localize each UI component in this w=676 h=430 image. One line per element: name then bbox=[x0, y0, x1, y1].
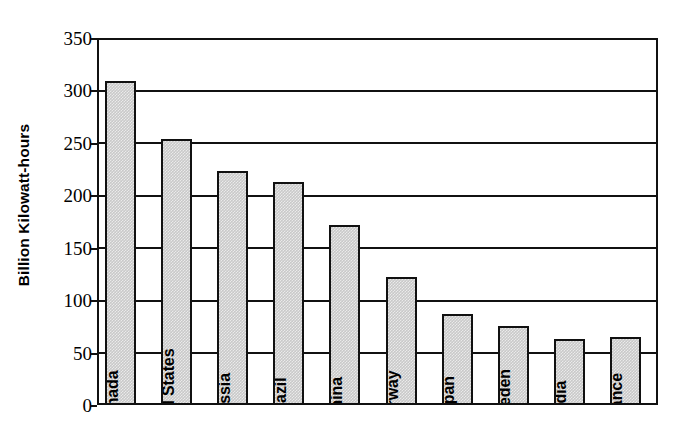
y-axis-tick-label: 50 bbox=[40, 343, 92, 362]
bar-label: Canada bbox=[105, 370, 121, 405]
y-axis-tick-labels: 050100150200250300350 bbox=[40, 0, 92, 430]
y-axis-tick-label: 300 bbox=[40, 81, 92, 100]
bar[interactable]: Russia bbox=[217, 171, 248, 405]
y-axis-tick-label: 200 bbox=[40, 186, 92, 205]
y-axis-tick-label: 250 bbox=[40, 133, 92, 152]
bar[interactable]: Brazil bbox=[273, 182, 304, 405]
bar-label: China bbox=[329, 377, 345, 405]
bar-chart: Billion Kilowatt-hours 05010015020025030… bbox=[0, 0, 676, 430]
y-axis-tick-label: 350 bbox=[40, 29, 92, 48]
bar-label: Brazil bbox=[273, 378, 289, 405]
bar[interactable]: Sweden bbox=[498, 326, 529, 405]
y-axis-tick-label: 100 bbox=[40, 291, 92, 310]
bar[interactable]: United States bbox=[161, 139, 192, 405]
bar-label: Russia bbox=[217, 373, 233, 405]
y-axis-title: Billion Kilowatt-hours bbox=[8, 0, 40, 410]
bar[interactable]: Canada bbox=[105, 81, 136, 405]
bar[interactable]: India bbox=[554, 339, 585, 405]
y-axis-title-text: Billion Kilowatt-hours bbox=[15, 124, 33, 286]
bar-label: Norway bbox=[386, 370, 402, 405]
y-axis-tick-label: 150 bbox=[40, 238, 92, 257]
bar-label: India bbox=[554, 381, 570, 405]
bar[interactable]: Norway bbox=[386, 277, 417, 405]
bar[interactable]: Japan bbox=[442, 314, 473, 405]
bars-layer: CanadaUnited StatesRussiaBrazilChinaNorw… bbox=[97, 38, 658, 405]
bar[interactable]: China bbox=[329, 225, 360, 405]
y-axis-tick-label: 0 bbox=[40, 396, 92, 415]
y-axis-tickmark bbox=[91, 405, 97, 407]
bar-label: Sweden bbox=[498, 369, 514, 405]
bar[interactable]: France bbox=[610, 337, 641, 405]
bar-label: France bbox=[610, 373, 626, 405]
bar-label: United States bbox=[161, 349, 177, 405]
bar-label: Japan bbox=[442, 376, 458, 405]
